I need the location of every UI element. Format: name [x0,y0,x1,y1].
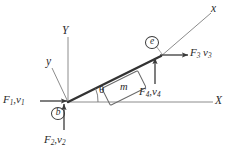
theta-arc [96,89,99,103]
global-x-axis-label: X [215,95,222,107]
force-symbol-F4: F [139,85,146,97]
node-b-label: b [56,108,61,118]
node-badge-b: b [51,107,65,120]
force-label-F2: F2,v2 [44,134,66,147]
velocity-subscript-F4: 4 [157,91,161,99]
local-y-axis-label: y [46,56,51,68]
velocity-subscript-F3: 3 [208,52,212,60]
velocity-subscript-F1: 1 [21,99,25,107]
force-label-F4: F4,v4 [139,86,161,99]
local-x-axis-label: x [211,3,216,15]
node-badge-e: e [145,36,159,49]
local-y-axis [52,68,68,102]
diagram-canvas [0,0,241,155]
force-symbol-F2: F [44,133,51,145]
node-e-label: e [150,37,154,47]
mass-label: m [120,82,128,93]
node-e-leader [156,46,162,54]
force-symbol-F3: F [190,46,197,58]
force-symbol-F1: F [3,93,10,105]
physics-diagram: X Y x y θ m b e F1,v1 F2,v2 F3 v3 F4,v4 [0,0,241,155]
force-label-F3: F3 v3 [190,47,212,60]
theta-angle-label: θ [99,84,104,95]
force-label-F1: F1,v1 [3,94,25,107]
velocity-subscript-F2: 2 [62,139,66,147]
global-y-axis-label: Y [62,25,68,37]
